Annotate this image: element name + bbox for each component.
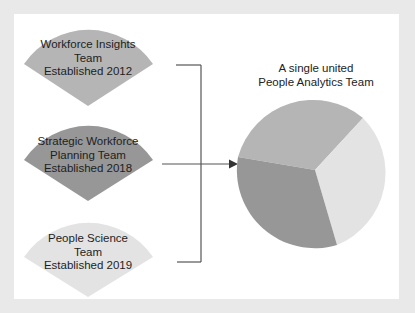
united-team-title: A single united People Analytics Team — [246, 61, 386, 89]
title-line1: A single united — [246, 61, 386, 75]
team-name-line1: People Science — [23, 232, 153, 246]
united-team-pie — [237, 100, 386, 248]
arrow-right-icon — [229, 160, 238, 169]
team-established: Established 2019 — [23, 259, 153, 273]
team-label-people-science: People Science Team Established 2019 — [23, 232, 153, 273]
team-name-line2: Team — [23, 52, 153, 66]
team-name-line2: Team — [23, 246, 153, 260]
team-established: Established 2018 — [23, 162, 153, 176]
team-established: Established 2012 — [23, 65, 153, 79]
team-label-workforce-insights: Workforce Insights Team Established 2012 — [23, 38, 153, 79]
team-name-line1: Workforce Insights — [23, 38, 153, 52]
team-label-strategic-workforce-planning: Strategic Workforce Planning Team Establ… — [23, 135, 153, 176]
title-line2: People Analytics Team — [246, 75, 386, 89]
team-name-line1: Strategic Workforce — [23, 135, 153, 149]
merge-connector — [162, 65, 230, 262]
team-name-line2: Planning Team — [23, 149, 153, 163]
